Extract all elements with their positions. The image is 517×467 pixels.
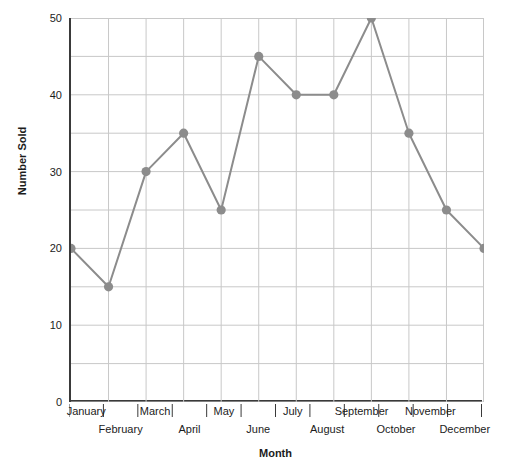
data-point-marker[interactable]: [179, 129, 188, 138]
x-axis-tick-label: September: [335, 405, 389, 417]
x-axis-tick-label: November: [405, 405, 456, 417]
data-point-marker[interactable]: [404, 129, 413, 138]
data-point-marker[interactable]: [104, 282, 113, 291]
x-axis-tick-label: January: [67, 405, 106, 417]
data-point-marker[interactable]: [141, 167, 150, 176]
x-axis-tick-labels: JanuaryFebruaryMarchAprilMayJuneJulyAugu…: [69, 404, 482, 444]
x-axis-tick-label: October: [376, 423, 415, 435]
x-axis-tick-label: May: [213, 405, 234, 417]
data-line: [71, 18, 484, 287]
x-axis-tick-label: December: [439, 423, 490, 435]
y-axis-tick-label: 20: [50, 242, 62, 254]
data-point-marker[interactable]: [292, 90, 301, 99]
y-axis-tick-label: 0: [56, 396, 62, 408]
plot-svg: [71, 18, 484, 402]
x-axis-title: Month: [69, 447, 482, 459]
y-axis-tick-label: 40: [50, 89, 62, 101]
x-axis-tick-label: February: [99, 423, 143, 435]
data-point-marker[interactable]: [217, 205, 226, 214]
y-axis-tick-label: 30: [50, 166, 62, 178]
x-axis-tick-label: March: [140, 405, 171, 417]
data-markers: [71, 18, 484, 291]
series-line-number-sold: [71, 18, 484, 287]
y-axis-tick-label: 10: [50, 319, 62, 331]
plot-area: [69, 18, 482, 402]
y-axis-tick-labels: 01020304050: [0, 0, 62, 467]
data-point-marker[interactable]: [367, 18, 376, 23]
data-point-marker[interactable]: [442, 205, 451, 214]
x-axis-tick-label: July: [283, 405, 303, 417]
data-point-marker[interactable]: [254, 52, 263, 61]
x-axis-tick-label: August: [310, 423, 344, 435]
data-point-marker[interactable]: [329, 90, 338, 99]
x-axis-tick-label: April: [178, 423, 200, 435]
x-axis-tick-label: June: [246, 423, 270, 435]
y-axis-tick-label: 50: [50, 12, 62, 24]
line-chart: Number Sold 01020304050 JanuaryFebruaryM…: [0, 0, 517, 467]
